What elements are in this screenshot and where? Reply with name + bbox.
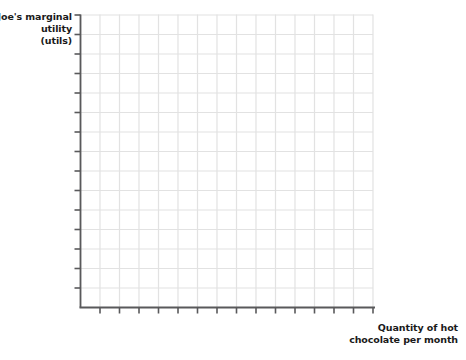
vertical-gridlines (81, 15, 374, 308)
plot-area (0, 0, 466, 360)
chart-container: Joe's marginal utility (utils) Quantity … (0, 0, 466, 360)
horizontal-gridlines (81, 15, 374, 308)
